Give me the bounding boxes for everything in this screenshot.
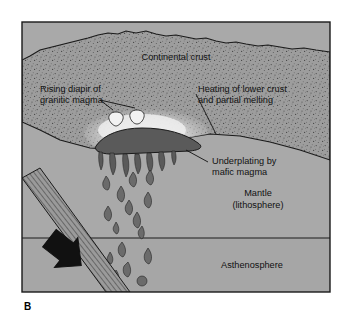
label-rising-diapir-line1: Rising diapir of xyxy=(40,84,101,94)
label-heating-line1: Heating of lower crust xyxy=(198,84,287,94)
label-heating-line2: and partial melting xyxy=(198,95,273,105)
label-asthenosphere: Asthenosphere xyxy=(221,260,283,270)
figure-caption: B xyxy=(24,301,31,312)
diagram-body xyxy=(22,22,330,292)
label-continental-crust: Continental crust xyxy=(142,52,211,62)
cross-section-svg: Continental crust Rising diapir of grani… xyxy=(0,0,346,320)
label-rising-diapir-line2: granitic magma xyxy=(40,95,104,105)
geology-cross-section-figure: Continental crust Rising diapir of grani… xyxy=(0,0,346,320)
label-mantle-line2: (lithosphere) xyxy=(232,200,283,210)
label-underplating-line2: mafic magma xyxy=(212,167,268,177)
label-underplating-line1: Underplating by xyxy=(212,156,277,166)
label-mantle-line1: Mantle xyxy=(244,188,272,198)
